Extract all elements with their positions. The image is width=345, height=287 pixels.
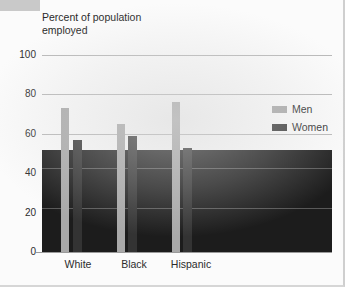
x-tick-black: Black <box>104 258 164 270</box>
y-tick-60: 60 <box>6 128 36 139</box>
x-axis-tick-labels: White Black Hispanic <box>42 258 332 274</box>
x-tick-white: White <box>48 258 108 270</box>
y-tick-100: 100 <box>6 49 36 60</box>
y-tick-80: 80 <box>6 88 36 99</box>
x-axis-baseline <box>36 252 332 253</box>
y-tick-0: 0 <box>6 246 36 257</box>
chart-legend: Men Women <box>272 102 340 138</box>
y-tick-40: 40 <box>6 167 36 178</box>
bar-chart: Percent of population employed 100 80 60… <box>0 0 345 287</box>
y-tick-20: 20 <box>6 207 36 218</box>
legend-swatch-men-icon <box>272 106 287 113</box>
bar-men-white[interactable] <box>61 108 69 252</box>
y-axis-tick-labels: 100 80 60 40 20 0 <box>4 55 36 252</box>
legend-item-women[interactable]: Women <box>272 120 340 135</box>
bar-series-container <box>42 55 332 252</box>
bar-men-hispanic[interactable] <box>172 102 180 252</box>
chart-title: Percent of population employed <box>42 11 222 37</box>
legend-item-men[interactable]: Men <box>272 102 340 117</box>
bar-women-white[interactable] <box>73 140 82 252</box>
bar-women-hispanic[interactable] <box>183 148 192 252</box>
legend-swatch-women-icon <box>272 124 287 131</box>
legend-label-women: Women <box>292 122 328 133</box>
bar-men-black[interactable] <box>117 124 125 252</box>
x-tick-hispanic: Hispanic <box>156 258 226 270</box>
bar-women-black[interactable] <box>128 136 137 252</box>
legend-label-men: Men <box>292 104 312 115</box>
